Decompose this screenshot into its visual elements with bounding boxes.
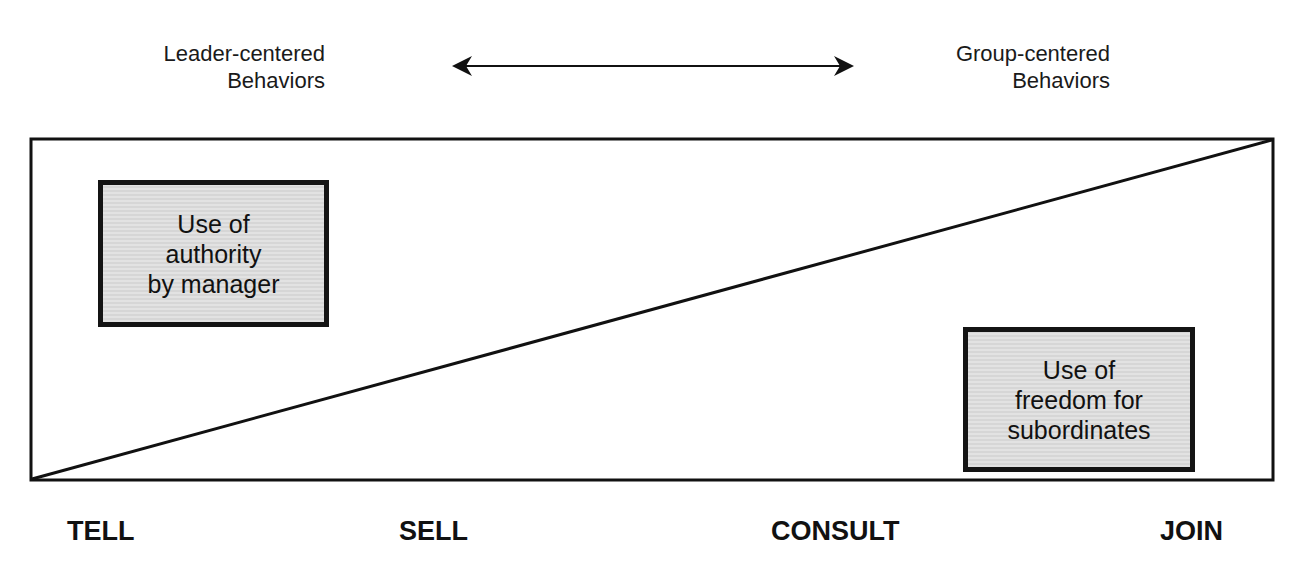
- freedom-line2: freedom for: [1007, 385, 1150, 415]
- style-join: JOIN: [1160, 516, 1223, 547]
- leader-centered-line2: Behaviors: [100, 67, 325, 94]
- leader-centered-label: Leader-centered Behaviors: [100, 40, 325, 94]
- authority-line1: Use of: [147, 209, 279, 239]
- group-centered-line2: Behaviors: [880, 67, 1110, 94]
- group-centered-line1: Group-centered: [880, 40, 1110, 67]
- freedom-line3: subordinates: [1007, 415, 1150, 445]
- leader-centered-line1: Leader-centered: [100, 40, 325, 67]
- authority-line3: by manager: [147, 269, 279, 299]
- freedom-box: Use of freedom for subordinates: [963, 327, 1195, 472]
- style-sell: SELL: [399, 516, 468, 547]
- style-tell: TELL: [67, 516, 135, 547]
- authority-line2: authority: [147, 239, 279, 269]
- authority-box: Use of authority by manager: [98, 180, 329, 327]
- group-centered-label: Group-centered Behaviors: [880, 40, 1110, 94]
- freedom-line1: Use of: [1007, 355, 1150, 385]
- style-consult: CONSULT: [771, 516, 900, 547]
